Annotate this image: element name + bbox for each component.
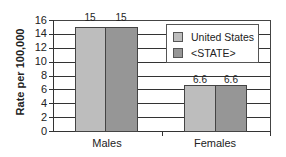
- y-tick-label: 0: [20, 126, 47, 137]
- y-axis: [53, 20, 54, 132]
- x-tick: [162, 131, 163, 136]
- y-tick-label: 10: [20, 56, 47, 67]
- value-label-females-us: 6.6: [185, 74, 215, 85]
- legend-swatch-icon: [173, 48, 183, 58]
- value-label-males-state: 15: [106, 12, 136, 23]
- y-tick: [49, 48, 53, 49]
- y-tick: [49, 62, 53, 63]
- y-tick: [49, 103, 53, 104]
- legend-label: <STATE>: [191, 47, 236, 59]
- y-tick-label: 8: [20, 70, 47, 81]
- x-label-females: Females: [185, 137, 245, 149]
- y-tick-label: 14: [20, 28, 47, 39]
- y-tick: [49, 89, 53, 90]
- value-label-males-us: 15: [75, 12, 105, 23]
- y-tick: [49, 34, 53, 35]
- legend-label: United States: [191, 31, 254, 43]
- y-tick-label: 2: [20, 112, 47, 123]
- y-tick: [49, 131, 53, 132]
- legend-item-state: <STATE>: [173, 46, 236, 60]
- y-tick-label: 16: [20, 15, 47, 26]
- bar-females-state: [215, 85, 247, 132]
- x-label-males: Males: [77, 137, 137, 149]
- legend-item-united-states: United States: [173, 30, 254, 44]
- y-tick: [49, 117, 53, 118]
- y-tick-label: 4: [20, 98, 47, 109]
- bar-males-state: [105, 27, 138, 132]
- legend-swatch-icon: [173, 32, 183, 42]
- y-tick: [49, 20, 53, 21]
- bar-chart: Rate per 100,000 0 2 4 6 8 10 12 14 16 1…: [0, 0, 286, 157]
- y-tick: [49, 76, 53, 77]
- legend: United States <STATE>: [166, 24, 259, 63]
- y-tick-label: 6: [20, 84, 47, 95]
- x-tick: [270, 131, 271, 136]
- bar-females-united-states: [184, 85, 216, 132]
- y-tick-label: 12: [20, 42, 47, 53]
- value-label-females-state: 6.6: [216, 74, 246, 85]
- bar-males-united-states: [75, 27, 106, 132]
